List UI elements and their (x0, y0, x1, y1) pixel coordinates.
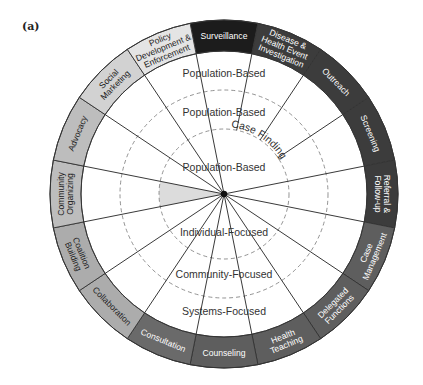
segment-label: CommunityOrganizing (56, 172, 75, 216)
case-finding-text: Case Finding (231, 117, 290, 160)
center-hub (221, 191, 227, 197)
segment-surveillance: Surveillance (190, 20, 258, 54)
segment-counseling: Counseling (190, 334, 258, 368)
level-label: Community-Focused (176, 268, 273, 280)
level-label: Population-Based (183, 161, 266, 173)
segment-referral-and-follow-up: Referral &Follow-up (364, 160, 398, 228)
level-label: Population-Based (183, 67, 266, 79)
segment-label: Counseling (203, 348, 246, 358)
segment-label: Surveillance (201, 31, 248, 41)
level-label: Individual-Focused (180, 226, 268, 238)
segment-community-organizing: CommunityOrganizing (50, 160, 84, 228)
level-label: Population-Based (183, 106, 266, 118)
case-finding-label: Case Finding (231, 117, 290, 160)
level-label: Systems-Focused (182, 305, 266, 317)
shaded-wedge (159, 181, 224, 206)
intervention-wheel: SurveillanceDisease &Health EventInvesti… (0, 0, 423, 385)
segment-label: Referral &Follow-up (373, 175, 392, 214)
